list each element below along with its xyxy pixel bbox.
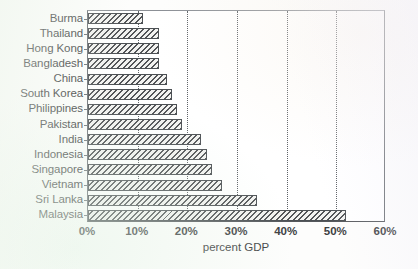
- y-axis-label: Philippines: [0, 102, 83, 114]
- y-axis-label: Hong Kong: [0, 42, 83, 54]
- x-axis-tick-label: 20%: [175, 224, 198, 238]
- y-axis-tick: [84, 215, 88, 216]
- y-axis-tick: [84, 200, 88, 201]
- bar: [88, 74, 167, 85]
- y-axis-tick: [84, 185, 88, 186]
- bar-chart: BurmaThailandHong KongBangladeshChinaSou…: [0, 0, 418, 269]
- y-axis-category-labels: BurmaThailandHong KongBangladeshChinaSou…: [0, 10, 83, 222]
- y-axis-label: Vietnam: [0, 178, 83, 190]
- bar: [88, 149, 207, 160]
- bar: [88, 43, 159, 54]
- y-axis-label: Thailand: [0, 27, 83, 39]
- y-axis-tick: [84, 64, 88, 65]
- y-axis-tick: [84, 94, 88, 95]
- y-axis-label: Pakistan: [0, 118, 83, 130]
- bar-row: [88, 162, 212, 177]
- x-axis-tick-label: 30%: [224, 224, 247, 238]
- bar-row: [88, 26, 159, 41]
- x-axis-tick-label: 10%: [125, 224, 148, 238]
- bar: [88, 104, 177, 115]
- bar: [88, 28, 159, 39]
- y-axis-label: South Korea: [0, 87, 83, 99]
- bar: [88, 119, 182, 130]
- y-axis-label: Burma: [0, 12, 83, 24]
- bar-row: [88, 178, 222, 193]
- bar-row: [88, 147, 207, 162]
- y-axis-label: Malaysia: [0, 208, 83, 220]
- x-axis-title: percent GDP: [87, 241, 385, 253]
- bar: [88, 134, 201, 145]
- bar: [88, 13, 143, 24]
- bar: [88, 164, 212, 175]
- y-axis-tick: [84, 170, 88, 171]
- bar-row: [88, 72, 167, 87]
- x-axis-tick-labels: 0%10%20%30%40%50%60%: [87, 224, 385, 240]
- bar-row: [88, 193, 257, 208]
- bar-row: [88, 56, 159, 71]
- y-axis-label: Sri Lanka: [0, 193, 83, 205]
- bar: [88, 89, 172, 100]
- x-axis-tick-label: 0%: [79, 224, 96, 238]
- bar: [88, 58, 159, 69]
- bar-row: [88, 132, 201, 147]
- y-axis-label: China: [0, 72, 83, 84]
- bar-row: [88, 117, 182, 132]
- bar-row: [88, 41, 159, 56]
- y-axis-tick: [84, 140, 88, 141]
- bar: [88, 210, 346, 221]
- bar-row: [88, 102, 177, 117]
- x-axis-tick-label: 60%: [373, 224, 396, 238]
- bar-series: [88, 11, 384, 221]
- y-axis-tick: [84, 49, 88, 50]
- y-axis-label: India: [0, 133, 83, 145]
- y-axis-tick: [84, 155, 88, 156]
- bar: [88, 195, 257, 206]
- x-axis-tick-label: 50%: [324, 224, 347, 238]
- bar-row: [88, 87, 172, 102]
- y-axis-tick: [84, 125, 88, 126]
- plot-area: [87, 10, 385, 222]
- bar: [88, 180, 222, 191]
- bar-row: [88, 11, 143, 26]
- y-axis-tick: [84, 109, 88, 110]
- y-axis-label: Bangladesh: [0, 57, 83, 69]
- bar-row: [88, 208, 346, 223]
- y-axis-tick: [84, 79, 88, 80]
- y-axis-tick: [84, 19, 88, 20]
- y-axis-label: Singapore: [0, 163, 83, 175]
- x-axis-tick-label: 40%: [274, 224, 297, 238]
- y-axis-tick: [84, 34, 88, 35]
- y-axis-label: Indonesia: [0, 148, 83, 160]
